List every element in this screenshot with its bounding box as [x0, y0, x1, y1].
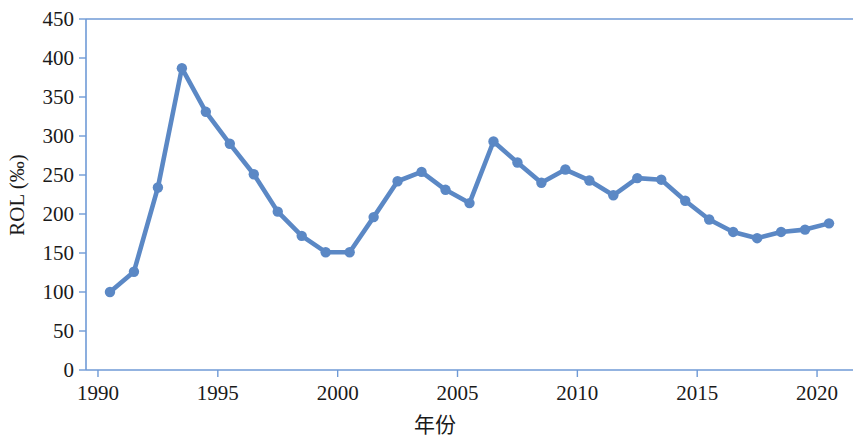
x-tick-label: 2005	[437, 381, 479, 405]
x-axis-title: 年份	[414, 413, 456, 437]
data-point	[680, 196, 690, 206]
data-point	[201, 107, 211, 117]
y-tick-label: 0	[64, 358, 75, 382]
y-tick-label: 250	[43, 163, 75, 187]
data-point	[632, 173, 642, 183]
data-point	[320, 247, 330, 257]
x-axis-tick-labels: 1990199520002005201020152020	[77, 381, 838, 405]
x-tick-label: 1995	[197, 381, 239, 405]
y-tick-label: 150	[43, 241, 75, 265]
y-axis-tick-labels: 050100150200250300350400450	[43, 7, 75, 382]
data-point	[704, 214, 714, 224]
x-tick-label: 2000	[317, 381, 359, 405]
data-point	[728, 227, 738, 237]
y-tick-label: 100	[43, 280, 75, 304]
data-point	[512, 157, 522, 167]
data-point	[344, 247, 354, 257]
data-point	[416, 167, 426, 177]
data-point	[129, 267, 139, 277]
y-tick-label: 50	[53, 319, 74, 343]
data-series-group	[105, 63, 834, 297]
data-point	[560, 164, 570, 174]
data-point	[536, 178, 546, 188]
y-tick-label: 450	[43, 7, 75, 31]
data-point	[656, 174, 666, 184]
data-point	[488, 136, 498, 146]
data-point	[225, 139, 235, 149]
axis-group	[86, 19, 853, 370]
data-point	[249, 169, 259, 179]
data-point	[752, 233, 762, 243]
x-axis-ticks	[98, 370, 817, 377]
y-tick-label: 300	[43, 124, 75, 148]
y-tick-label: 200	[43, 202, 75, 226]
data-point	[153, 182, 163, 192]
data-point	[297, 231, 307, 241]
chart-figure: 050100150200250300350400450 199019952000…	[0, 0, 861, 441]
y-tick-label: 400	[43, 46, 75, 70]
x-tick-label: 2020	[796, 381, 838, 405]
x-tick-label: 2015	[676, 381, 718, 405]
x-tick-label: 1990	[77, 381, 119, 405]
data-point	[177, 63, 187, 73]
line-chart: 050100150200250300350400450 199019952000…	[0, 0, 861, 441]
y-axis-title: ROL (‰)	[5, 154, 29, 235]
data-point	[464, 198, 474, 208]
data-point	[776, 227, 786, 237]
y-tick-label: 350	[43, 85, 75, 109]
data-point	[368, 212, 378, 222]
data-point	[440, 185, 450, 195]
data-point	[800, 224, 810, 234]
data-point	[273, 206, 283, 216]
data-point	[608, 190, 618, 200]
y-axis-ticks	[79, 19, 86, 370]
data-point	[105, 287, 115, 297]
data-point	[584, 175, 594, 185]
x-tick-label: 2010	[556, 381, 598, 405]
data-line	[110, 68, 829, 292]
data-point	[392, 176, 402, 186]
data-point	[824, 218, 834, 228]
